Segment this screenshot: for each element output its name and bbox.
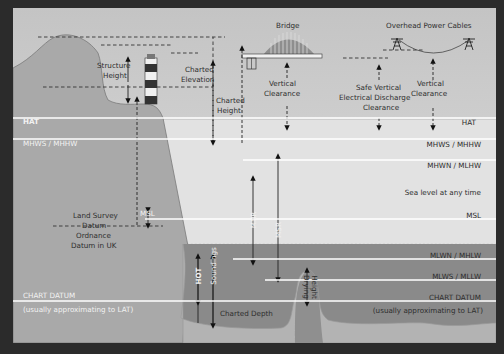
charted-elevation-label-1: Charted [185, 65, 214, 74]
bridge-clearance-label-1: Vertical [269, 79, 296, 88]
left-msl-label: MSL [140, 209, 155, 218]
tidal-levels-diagram: Bridge Overhead Power Cables Structure H… [13, 8, 496, 343]
right-hat-label: HAT [462, 118, 477, 127]
cable-clearance-label-1: Vertical [417, 79, 444, 88]
safe-clearance-label-2: Electrical Discharge [339, 93, 411, 102]
mnr-label: MNR [249, 212, 258, 229]
charted-elevation-label-2: Elevation [181, 75, 214, 84]
charted-height-label-1: Charted [216, 96, 245, 105]
left-hat-label: HAT [23, 117, 39, 126]
diagram-canvas: Bridge Overhead Power Cables Structure H… [13, 8, 496, 343]
left-chart-datum-label: CHART DATUM [23, 291, 75, 300]
sea-level-label: Sea level at any time [405, 188, 482, 197]
power-cables-label: Overhead Power Cables [386, 21, 472, 30]
right-msl-label: MSL [466, 211, 481, 220]
ordnance-label-2: Datum in UK [71, 241, 117, 250]
safe-clearance-label-3: Clearance [363, 103, 400, 112]
right-mhwn-label: MHWN / MLHW [427, 161, 481, 170]
safe-clearance-label-1: Safe Vertical [356, 83, 401, 92]
right-mlws-label: MLWS / MLLW [432, 272, 481, 281]
charted-height-label-2: Height [217, 106, 241, 115]
right-mlwn-label: MLWN / MHLW [430, 251, 481, 260]
right-chart-datum-label: CHART DATUM [429, 293, 481, 302]
land-survey-label-1: Land Survey [73, 211, 119, 220]
right-mhws-label: MHWS / MHHW [427, 140, 481, 149]
left-chart-datum-note: (usually approximating to LAT) [23, 305, 133, 314]
right-chart-datum-note: (usually approximating to LAT) [373, 306, 483, 315]
bridge-label: Bridge [276, 21, 300, 30]
ordnance-label-1: Ordnance [76, 231, 112, 240]
soundings-label: Soundings [209, 247, 218, 285]
lighthouse-icon [145, 54, 157, 104]
cable-clearance-label-2: Clearance [411, 89, 448, 98]
bridge-clearance-label-2: Clearance [264, 89, 301, 98]
charted-depth-label: Charted Depth [220, 309, 273, 318]
land-survey-label-2: Datum [82, 221, 106, 230]
msr-label: MSR [274, 222, 283, 238]
drying-height-label-1: Drying [302, 275, 311, 299]
drying-height-label-2: Height [310, 275, 319, 299]
structure-height-label-1: Structure [97, 61, 131, 70]
hot-label: HOT [194, 267, 203, 284]
left-mhws-label: MHWS / MHHW [23, 139, 77, 148]
structure-height-label-2: Height [103, 71, 127, 80]
